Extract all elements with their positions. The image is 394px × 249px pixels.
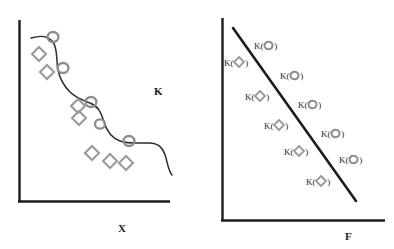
diamond-icon <box>233 56 245 68</box>
k-label-close: ) <box>341 129 344 139</box>
k-circle-label-4: K() <box>321 128 344 139</box>
diamond-icon <box>273 119 285 131</box>
k-label-open: K( <box>264 121 273 131</box>
diamond-marker <box>40 65 54 79</box>
k-label-close: ) <box>245 58 248 68</box>
right-x-axis-label: F <box>345 230 352 242</box>
k-label-close: ) <box>359 155 362 165</box>
k-label-open: K( <box>339 155 348 165</box>
k-circle-label-1: K() <box>254 40 277 51</box>
k-circle-label-5: K() <box>339 154 362 165</box>
k-circle-label-2: K() <box>280 70 303 81</box>
diamond-marker <box>119 156 133 170</box>
diamond-icon <box>315 175 327 187</box>
k-label-open: K( <box>280 71 289 81</box>
k-label-open: K( <box>321 129 330 139</box>
diamond-marker <box>32 47 46 61</box>
k-label-open: K( <box>298 100 307 110</box>
left-panel <box>18 20 172 202</box>
circle-icon <box>330 128 341 139</box>
circle-marker <box>124 136 135 146</box>
k-label-close: ) <box>327 177 330 187</box>
left-x-axis-label: X <box>118 222 126 234</box>
circle-icon <box>348 154 359 165</box>
right-panel <box>221 18 385 221</box>
k-label-close: ) <box>318 100 321 110</box>
left-y-axis-label: K <box>154 85 163 97</box>
staircase-curve <box>31 36 172 175</box>
circle-marker <box>48 32 59 42</box>
diamond-icon <box>293 145 305 157</box>
left-circle-markers <box>48 32 135 146</box>
k-diamond-label-5: K() <box>306 175 330 187</box>
k-label-open: K( <box>284 147 293 157</box>
circle-marker <box>58 63 69 73</box>
k-label-close: ) <box>305 147 308 157</box>
diamond-marker <box>103 154 117 168</box>
k-label-open: K( <box>254 41 263 51</box>
circle-icon <box>263 40 274 51</box>
k-diamond-label-3: K() <box>264 119 288 131</box>
circle-marker <box>95 119 105 128</box>
k-diamond-label-2: K() <box>245 90 269 102</box>
diamond-marker <box>85 146 99 160</box>
k-label-open: K( <box>306 177 315 187</box>
k-label-close: ) <box>266 92 269 102</box>
k-label-open: K( <box>224 58 233 68</box>
k-label-close: ) <box>285 121 288 131</box>
figure-canvas <box>0 0 394 249</box>
left-diamond-markers <box>32 47 133 170</box>
diamond-icon <box>254 90 266 102</box>
circle-icon <box>307 99 318 110</box>
k-label-close: ) <box>300 71 303 81</box>
k-diamond-label-1: K() <box>224 56 248 68</box>
k-label-close: ) <box>274 41 277 51</box>
linear-fit-line <box>233 28 356 201</box>
circle-icon <box>289 70 300 81</box>
k-label-open: K( <box>245 92 254 102</box>
k-diamond-label-4: K() <box>284 145 308 157</box>
k-circle-label-3: K() <box>298 99 321 110</box>
